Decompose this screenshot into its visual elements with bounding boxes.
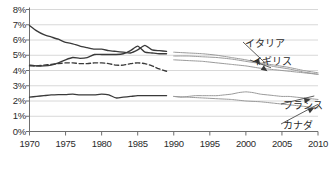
series-line — [174, 60, 318, 74]
series-line — [30, 94, 167, 98]
y-tick-label: 3% — [0, 80, 26, 91]
x-tick-label: 2010 — [301, 138, 329, 149]
series-label-3: フランス — [283, 97, 323, 112]
x-axis-ticks — [30, 132, 319, 136]
x-tick-label: 1975 — [49, 138, 83, 149]
y-tick-label: 0% — [0, 126, 26, 137]
y-tick-label: 7% — [0, 19, 26, 30]
x-tick-label: 1970 — [13, 138, 47, 149]
series-label-1: イタリア — [245, 35, 285, 50]
line-chart: 8%7%6%5%4%3%2%1%0% 197019751980198519901… — [0, 0, 329, 170]
x-tick-label: 2005 — [265, 138, 299, 149]
gridlines — [30, 10, 319, 132]
x-tick-label: 1985 — [121, 138, 155, 149]
series-line — [30, 63, 167, 71]
series-label-2: イギリス — [252, 53, 292, 68]
x-tick-label: 1980 — [85, 138, 119, 149]
y-tick-label: 2% — [0, 95, 26, 106]
y-tick-label: 6% — [0, 34, 26, 45]
y-tick-label: 1% — [0, 110, 26, 121]
y-tick-label: 4% — [0, 65, 26, 76]
series-label-4: カナダ — [283, 117, 313, 132]
series-line — [30, 26, 167, 53]
x-tick-label: 1990 — [157, 138, 191, 149]
y-axis-ticks — [26, 10, 30, 132]
y-tick-label: 5% — [0, 49, 26, 60]
y-tick-label: 8% — [0, 4, 26, 15]
x-tick-label: 1995 — [193, 138, 227, 149]
x-tick-label: 2000 — [229, 138, 263, 149]
